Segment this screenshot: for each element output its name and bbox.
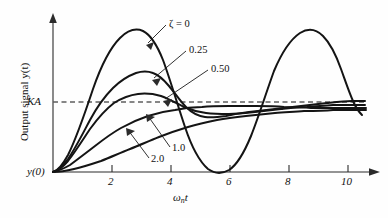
- curve-zeta-0: [53, 30, 362, 173]
- step-response-plot: [0, 0, 388, 218]
- leader-arrow-zeta-025: [152, 78, 161, 86]
- x-axis-t: t: [185, 191, 188, 203]
- curve-label-zeta-10: 1.0: [172, 143, 185, 154]
- curve-label-zeta-0: ζ = 0: [169, 19, 190, 30]
- x-tick-label-6: 6: [226, 176, 232, 187]
- x-tick-label-10: 10: [341, 176, 352, 187]
- curve-label-zeta-025: 0.25: [189, 45, 207, 56]
- curve-label-zeta-20: 2.0: [151, 154, 164, 165]
- figure-container: ζ = 0 0.25 0.50 1.0 2.0 KA y(0) 2 4 6 8 …: [0, 0, 388, 218]
- x-tick-label-2: 2: [108, 176, 114, 187]
- x-tick-label-8: 8: [285, 176, 291, 187]
- x-axis-title: ωnt: [173, 192, 188, 205]
- y-axis-arrowhead: [49, 13, 57, 23]
- x-tick-label-4: 4: [167, 176, 173, 187]
- leader-zeta-10: [148, 116, 170, 147]
- x-axis-arrowhead: [369, 168, 380, 176]
- y-axis-title: Output signal y(t): [18, 32, 30, 172]
- leader-arrow-zeta-050: [163, 99, 172, 107]
- leader-zeta-0: [148, 25, 166, 43]
- curve-label-zeta-050: 0.50: [211, 64, 229, 75]
- leader-zeta-20: [128, 130, 149, 158]
- leader-arrow-zeta-20: [126, 128, 135, 136]
- leader-arrow-zeta-0: [146, 42, 154, 50]
- leader-zeta-025: [154, 51, 186, 78]
- x-axis-omega: ω: [173, 191, 181, 203]
- y-axis: [49, 13, 57, 172]
